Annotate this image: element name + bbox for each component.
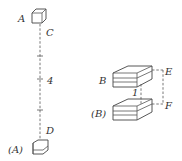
label-c: C xyxy=(46,27,54,38)
prism-b-top xyxy=(113,66,152,87)
cube-a-bottom xyxy=(33,140,48,154)
label-4: 4 xyxy=(46,75,53,86)
label-e: E xyxy=(164,66,173,77)
left-figure: A C 4 D (A) xyxy=(8,9,54,155)
cube-a-top xyxy=(32,9,46,23)
label-a: A xyxy=(17,13,25,24)
diagram-canvas: A C 4 D (A) B xyxy=(0,0,182,161)
label-a-paren: (A) xyxy=(8,144,23,155)
prism-b-bottom xyxy=(113,99,152,120)
label-f: F xyxy=(164,100,173,111)
label-1: 1 xyxy=(132,87,138,98)
label-b-paren: (B) xyxy=(91,108,106,119)
label-b: B xyxy=(98,75,106,86)
label-d: D xyxy=(45,125,54,136)
right-figure: B (B) 1 E F xyxy=(91,66,173,120)
